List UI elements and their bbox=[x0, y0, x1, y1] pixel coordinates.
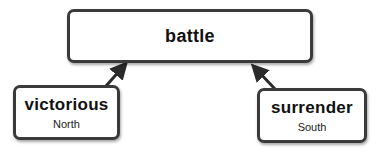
root-node: battle bbox=[67, 9, 313, 63]
arrow-right bbox=[257, 70, 275, 89]
child-node-south: surrender South bbox=[257, 88, 367, 143]
child-label: surrender bbox=[271, 98, 353, 118]
child-sublabel: North bbox=[53, 118, 80, 130]
child-node-north: victorious North bbox=[13, 85, 120, 140]
child-sublabel: South bbox=[298, 121, 327, 133]
root-label: battle bbox=[165, 26, 215, 47]
arrow-left bbox=[106, 68, 122, 86]
child-label: victorious bbox=[24, 95, 108, 115]
